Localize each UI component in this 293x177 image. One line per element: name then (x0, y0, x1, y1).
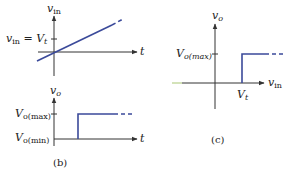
panel-c-high-label: Vo(max) (176, 47, 212, 61)
panel-b-x-axis-label: t (140, 132, 145, 145)
panel-c-threshold-label: Vt (237, 88, 249, 102)
panel-a-x-axis-label: t (140, 45, 145, 58)
panel-a-ramp-line (37, 25, 112, 61)
panel-b-high-label: Vo(max) (15, 107, 51, 121)
panel-b-step-line (78, 114, 114, 139)
panel-c-y-axis-label: vo (212, 9, 223, 23)
comparator-diagram: vin t vin = Vt vo t Vo(max) Vo(min) (b) … (0, 0, 293, 177)
panel-c-step-line (242, 54, 265, 83)
panel-a-threshold-label: vin = Vt (6, 32, 48, 46)
panel-a-input-ramp: vin t vin = Vt (6, 2, 145, 76)
panel-c-x-axis-label: vin (268, 76, 282, 90)
panel-b-caption: (b) (53, 157, 67, 168)
panel-b-output-vs-time: vo t Vo(max) Vo(min) (b) (15, 84, 145, 168)
panel-a-ramp-dashed (112, 19, 123, 25)
panel-c-transfer-characteristic: vo vin Vo(max) Vt (c) (172, 9, 283, 145)
panel-b-y-axis-label: vo (50, 84, 61, 98)
panel-a-y-axis-label: vin (47, 2, 61, 16)
panel-b-low-label: Vo(min) (15, 131, 49, 145)
panel-c-caption: (c) (211, 134, 225, 145)
